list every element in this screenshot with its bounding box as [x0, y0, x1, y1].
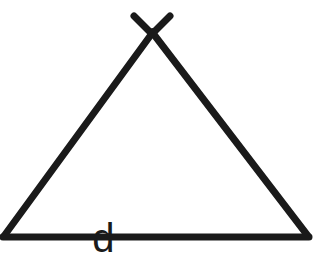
tipi-right-edge	[152, 32, 308, 236]
tipi-pole-left	[134, 16, 152, 34]
tipi-pole-right	[152, 16, 170, 34]
word-first-letter: d	[92, 216, 114, 255]
fill-in-word: d g	[70, 178, 164, 255]
